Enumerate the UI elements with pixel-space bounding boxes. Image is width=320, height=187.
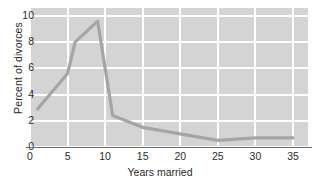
x-tick-label-1: 5: [53, 150, 83, 162]
x-axis-title: Years married: [0, 166, 320, 178]
x-tick-label-4: 20: [165, 150, 195, 162]
series-line-layer: [30, 8, 308, 147]
y-tick-label-3: 6: [8, 61, 34, 73]
divorce-rate-line-chart: Percent of divorces 0246810 051015202530…: [0, 0, 320, 187]
series-polyline: [38, 21, 293, 140]
plot-area: [30, 8, 308, 147]
x-tick-label-3: 15: [128, 150, 158, 162]
x-axis-line: [26, 147, 312, 148]
x-tick-label-7: 35: [278, 150, 308, 162]
y-tick-label-2: 4: [8, 88, 34, 100]
x-tick-label-2: 10: [90, 150, 120, 162]
x-tick-label-6: 30: [240, 150, 270, 162]
y-tick-label-1: 2: [8, 114, 34, 126]
y-tick-label-4: 8: [8, 35, 34, 47]
x-tick-label-5: 25: [203, 150, 233, 162]
y-tick-label-5: 10: [8, 9, 34, 21]
x-tick-label-0: 0: [15, 150, 45, 162]
